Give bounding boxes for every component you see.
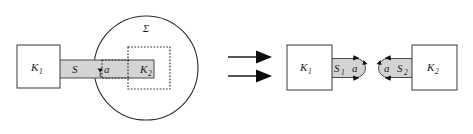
k2-subscript: 2 [148,69,152,78]
right-part-one-group: K 1 S 1 a [287,45,368,90]
figure-container: K 1 S a K 2 Σ K 1 S [0,0,473,134]
band-s1-label: S [334,62,340,74]
left-panel-group: K 1 S a K 2 Σ [17,16,198,120]
right-part-two-group: a S 2 K 2 [377,45,458,90]
diagram-svg: K 1 S a K 2 Σ K 1 S [0,0,473,134]
s2-cap-tick-left [377,60,382,65]
s1-cap-tick-right [363,60,368,65]
arrow-head-top [256,51,272,64]
interface-a-label-right-one: a [352,62,358,74]
transition-arrows-group [228,51,272,83]
k1-subscript-right: 1 [308,67,312,76]
k1-label: K [30,61,39,73]
k1-label-right: K [299,61,308,73]
arrow-head-bottom [256,70,272,83]
band-s-label: S [72,63,78,75]
k2-label-right: K [426,61,435,73]
k1-subscript: 1 [39,67,43,76]
band-s2-subscript: 2 [404,68,408,77]
interface-a-label-right-two: a [384,62,390,74]
sigma-label: Σ [142,23,149,34]
interface-a-label: a [104,63,110,75]
band-s2-label: S [397,62,403,74]
k2-label: K [139,63,148,75]
k2-subscript-right: 2 [435,67,439,76]
band-s1-subscript: 1 [341,68,345,77]
